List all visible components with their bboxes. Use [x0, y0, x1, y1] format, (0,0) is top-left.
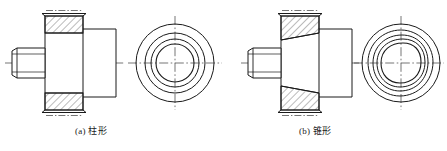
panel-b-conical — [241, 11, 444, 116]
panel-a-caption: (a) 柱形 — [75, 124, 107, 137]
panel-a-end-view — [128, 16, 222, 110]
technical-drawing-canvas — [0, 0, 447, 151]
panel-a-hub-body — [45, 33, 83, 93]
panel-a-side-view — [5, 11, 125, 116]
panel-b-cone-body — [281, 33, 319, 93]
panel-a-boss — [83, 29, 116, 97]
panel-b-caption: (b) 锥形 — [299, 124, 332, 137]
panel-a-flange-top — [45, 16, 83, 33]
panel-a-cylindrical — [5, 11, 222, 116]
drawing-sheet: (a) 柱形 (b) 锥形 — [0, 0, 447, 151]
panel-b-end-view — [354, 16, 444, 110]
panel-b-side-view — [241, 11, 361, 116]
panel-b-boss — [319, 29, 352, 97]
panel-a-flange-bottom — [45, 93, 83, 110]
